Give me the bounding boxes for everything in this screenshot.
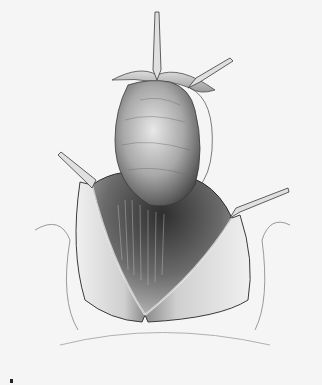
retractor-upper-right [188,58,233,88]
retractor-top [153,12,161,80]
corner-mark [10,379,13,383]
illustration-canvas [0,0,322,385]
retractor-right [230,188,289,218]
surgical-illustration [0,0,322,385]
retractor-left [58,152,96,188]
